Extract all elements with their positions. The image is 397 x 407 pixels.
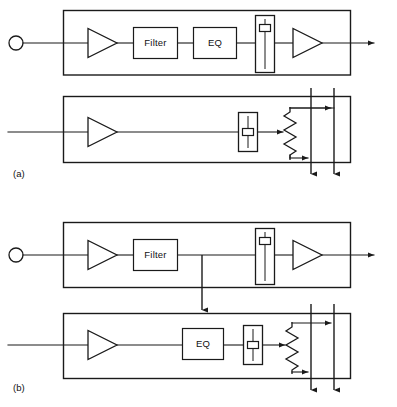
output-amplifier-icon[interactable] bbox=[293, 29, 322, 58]
eq-block-label: EQ bbox=[208, 37, 222, 48]
input-jack-circle-icon[interactable] bbox=[9, 36, 23, 50]
amplifier-icon[interactable] bbox=[88, 331, 117, 360]
fader-knob[interactable] bbox=[243, 129, 254, 136]
pan-resistor-icon[interactable] bbox=[286, 322, 298, 374]
panel-b-bottom-strip: EQ bbox=[8, 304, 351, 390]
fader-control[interactable] bbox=[256, 16, 275, 73]
fader-control[interactable] bbox=[256, 229, 275, 285]
pan-resistor-icon[interactable] bbox=[284, 107, 296, 160]
panel-a-label: (a) bbox=[13, 168, 25, 179]
panel-a-bottom-strip bbox=[8, 88, 351, 174]
panel-b-top-strip: Filter bbox=[9, 223, 374, 311]
diagram-canvas: Filter EQ bbox=[0, 0, 397, 407]
signal-flow-diagram: Filter EQ bbox=[0, 0, 397, 407]
fader-knob[interactable] bbox=[260, 238, 271, 245]
fader-control[interactable] bbox=[244, 326, 263, 365]
filter-block-label: Filter bbox=[144, 249, 166, 260]
panel-a-top-strip: Filter EQ bbox=[9, 11, 374, 76]
fader-knob[interactable] bbox=[260, 25, 271, 32]
fader-control[interactable] bbox=[239, 113, 258, 152]
filter-block-label: Filter bbox=[144, 37, 166, 48]
amplifier-icon[interactable] bbox=[88, 118, 117, 147]
amplifier-icon[interactable] bbox=[88, 29, 117, 58]
amplifier-icon[interactable] bbox=[88, 241, 117, 270]
panel-b-label: (b) bbox=[13, 382, 25, 393]
output-amplifier-icon[interactable] bbox=[293, 241, 322, 270]
input-jack-circle-icon[interactable] bbox=[9, 248, 23, 262]
eq-block-label: EQ bbox=[196, 338, 210, 349]
fader-knob[interactable] bbox=[248, 342, 259, 349]
